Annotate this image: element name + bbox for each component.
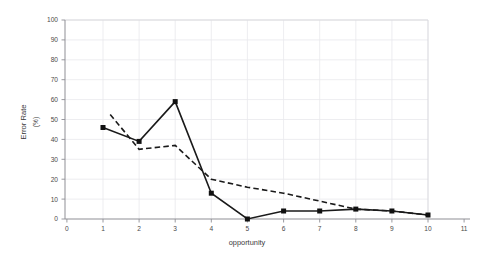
data-point-marker: [426, 213, 431, 218]
y-tick-label: 50: [51, 116, 59, 123]
data-point-marker: [353, 207, 358, 212]
x-tick-label: 9: [390, 225, 394, 232]
data-point-marker: [281, 209, 286, 214]
line-chart-canvas: 0 10 20 30 40 50 60 70 80 90 100: [0, 0, 485, 255]
x-tick-label: 4: [209, 225, 213, 232]
y-tick-label: 100: [47, 16, 58, 23]
x-tick-marks: [67, 219, 464, 223]
y-tick-label: 90: [51, 36, 59, 43]
x-tick-label: 8: [354, 225, 358, 232]
y-tick-label: 0: [54, 215, 58, 222]
y-axis-unit-label: (%): [32, 117, 40, 127]
y-axis-title: Error Rate: [19, 104, 28, 139]
y-tick-label: 20: [51, 176, 59, 183]
x-tick-label: 10: [424, 225, 432, 232]
x-tick-label: 0: [65, 225, 69, 232]
y-tick-label: 60: [51, 96, 59, 103]
x-tick-label: 11: [461, 225, 468, 232]
data-point-marker: [209, 191, 214, 196]
y-tick-labels: 0 10 20 30 40 50 60 70 80 90 100: [47, 16, 58, 222]
y-tick-label: 10: [51, 196, 59, 203]
data-point-marker: [173, 99, 178, 104]
x-tick-label: 7: [318, 225, 322, 232]
data-point-marker: [389, 209, 394, 214]
data-point-marker: [245, 217, 250, 222]
data-point-marker: [137, 139, 142, 144]
y-tick-marks: [62, 20, 66, 219]
y-tick-label: 80: [51, 56, 59, 63]
x-axis-title: opportunity: [229, 238, 266, 247]
x-tick-label: 2: [137, 225, 141, 232]
y-tick-label: 70: [51, 76, 59, 83]
x-tick-label: 5: [246, 225, 250, 232]
x-tick-label: 6: [282, 225, 286, 232]
y-tick-label: 40: [51, 136, 59, 143]
y-tick-label: 30: [51, 156, 59, 163]
x-tick-label: 1: [101, 225, 105, 232]
chart-figure: 0 10 20 30 40 50 60 70 80 90 100: [0, 0, 485, 255]
x-tick-label: 3: [173, 225, 177, 232]
data-point-marker: [101, 125, 106, 130]
data-point-marker: [317, 209, 322, 214]
x-tick-labels: 0 1 2 3 4 5 6 7 8 9 10 11: [65, 225, 468, 232]
